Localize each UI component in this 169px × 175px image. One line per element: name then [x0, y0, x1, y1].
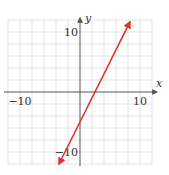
x-tick-label: 10: [133, 95, 147, 108]
x-tick-label: −10: [8, 95, 31, 108]
y-tick-label: 10: [64, 26, 78, 39]
series-line: [59, 22, 130, 164]
coordinate-plane: xy −101010−10: [0, 0, 169, 175]
x-axis-label: x: [156, 77, 163, 90]
axes: xy: [4, 12, 163, 166]
series-layer: [59, 22, 130, 164]
y-axis-label: y: [84, 12, 92, 25]
